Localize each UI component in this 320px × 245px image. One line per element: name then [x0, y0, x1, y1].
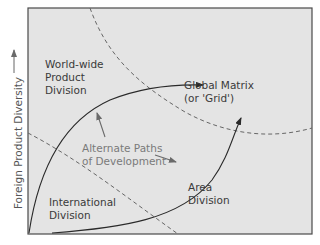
- callout-line: of Development: [82, 155, 166, 168]
- callout-alternate-paths: Alternate Paths of Development: [82, 142, 166, 168]
- region-label-line: Division: [188, 194, 230, 207]
- region-label-line: World-wide: [45, 58, 104, 71]
- region-label-global-matrix: Global Matrix (or 'Grid'): [184, 79, 254, 105]
- region-label-area-division: Area Division: [188, 181, 230, 207]
- region-label-line: Area: [188, 181, 230, 194]
- region-label-line: Division: [49, 209, 116, 222]
- stopford-wells-diagram: Foreign Product Diversity World-wide Pro…: [0, 0, 320, 245]
- region-label-line: Division: [45, 84, 104, 97]
- region-label-line: (or 'Grid'): [184, 92, 254, 105]
- region-label-line: Global Matrix: [184, 79, 254, 92]
- region-label-worldwide-product: World-wide Product Division: [45, 58, 104, 97]
- region-label-line: Product: [45, 71, 104, 84]
- y-axis-label: Foreign Product Diversity: [11, 73, 25, 213]
- region-label-international-division: International Division: [49, 196, 116, 222]
- diagram-canvas: [0, 0, 320, 245]
- callout-line: Alternate Paths: [82, 142, 166, 155]
- region-label-line: International: [49, 196, 116, 209]
